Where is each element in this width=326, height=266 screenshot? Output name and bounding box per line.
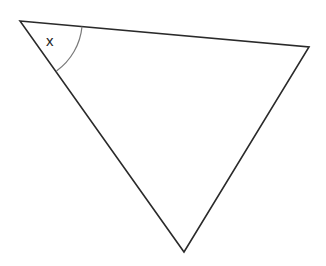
angle-arc: [57, 27, 83, 71]
triangle: [20, 21, 309, 252]
angle-label: x: [46, 32, 54, 49]
triangle-diagram: x: [0, 0, 326, 266]
